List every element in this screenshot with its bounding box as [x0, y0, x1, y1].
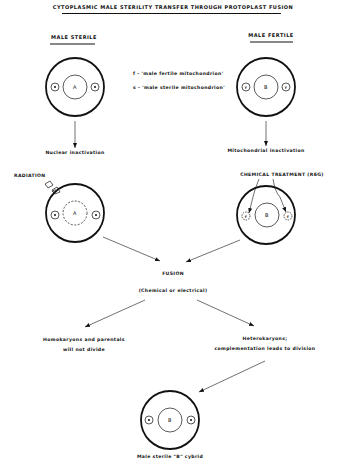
arrow-left-to-fusion [103, 237, 160, 261]
svg-text:A: A [73, 210, 77, 216]
arrow-to-cybrid [199, 361, 265, 392]
fusion-method-label: (Chemical or electrical) [139, 288, 208, 293]
diagram-title: CYTOPLASMIC MALE STERILITY TRANSFER THRO… [53, 4, 294, 10]
radiation-bolt-icon [45, 181, 60, 194]
mitochondrial-inactivation-label: Mitochondrial inactivation [227, 148, 304, 153]
chemical-arrow-right [273, 179, 286, 212]
male-fertile-header: MALE FERTILE [248, 32, 294, 38]
cell-top-right: B f f [237, 58, 295, 116]
svg-text:B: B [265, 212, 269, 218]
svg-text:f: f [287, 215, 289, 219]
svg-text:A: A [73, 84, 77, 90]
homokaryons-line2: will not divide [63, 347, 105, 352]
svg-text:f: f [245, 86, 247, 90]
fusion-label: FUSION [162, 271, 184, 276]
cell-bottom-cybrid: B [141, 391, 199, 449]
arrow-to-homokaryons [85, 300, 145, 327]
nuclear-inactivation-label: Nuclear inactivation [45, 150, 104, 155]
cell-mid-right-treated: B f f [237, 186, 295, 244]
svg-text:B: B [168, 417, 172, 423]
cybrid-label: Male sterile "B" cybrid [137, 454, 203, 459]
arrow-to-heterokaryons [197, 300, 254, 326]
svg-text:f: f [245, 215, 247, 219]
legend-sterile: s - 'male sterile mitochondrion' [133, 85, 225, 90]
arrow-right-to-fusion [186, 240, 240, 262]
heterokaryons-line1: Heterokaryons; [242, 336, 287, 341]
svg-text:B: B [264, 84, 268, 90]
homokaryons-line1: Homokaryons and parentals [43, 337, 125, 342]
cell-top-left: A [46, 58, 104, 116]
svg-text:f: f [285, 86, 287, 90]
heterokaryons-line2: complementation leads to division [215, 346, 316, 351]
diagram-canvas: CYTOPLASMIC MALE STERILITY TRANSFER THRO… [0, 0, 346, 461]
legend-fertile: f - 'male fertile mitochondrion' [133, 71, 223, 76]
radiation-label: RADIATION [14, 173, 46, 178]
chemical-treatment-label: CHEMICAL TREATMENT (R6G) [240, 172, 324, 177]
male-sterile-header: MALE STERILE [51, 34, 97, 40]
cell-mid-left-irradiated: A [46, 184, 104, 242]
